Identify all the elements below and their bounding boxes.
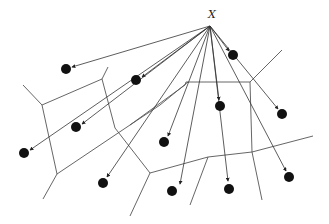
voronoi-edge <box>23 85 42 105</box>
ray-to-s12 <box>210 26 286 171</box>
ray-to-s5 <box>107 26 210 177</box>
ray-to-s11 <box>210 26 278 109</box>
ray-to-s1 <box>72 26 210 67</box>
sites <box>19 50 294 196</box>
site-s3 <box>71 122 81 132</box>
voronoi-edge <box>130 173 150 216</box>
site-s1 <box>61 64 71 74</box>
voronoi-edge <box>250 82 252 152</box>
voronoi-edge <box>252 152 262 200</box>
voronoi-edge <box>42 105 57 174</box>
voronoi-edge <box>43 174 57 199</box>
voronoi-edge <box>252 136 313 152</box>
site-s2 <box>131 75 141 85</box>
voronoi-edge <box>42 79 102 105</box>
ray-to-s3 <box>82 26 210 124</box>
query-point-label: X <box>207 8 217 21</box>
site-s8 <box>224 184 234 194</box>
voronoi-edge <box>190 157 208 205</box>
voronoi-edge <box>250 50 282 82</box>
voronoi-edge <box>150 157 208 173</box>
site-s7 <box>167 186 177 196</box>
site-s11 <box>277 109 287 119</box>
voronoi-edge <box>57 125 130 174</box>
site-s9 <box>215 101 225 111</box>
site-s4 <box>19 148 29 158</box>
site-s6 <box>159 137 169 147</box>
site-s10 <box>228 50 238 60</box>
voronoi-edge <box>208 152 252 157</box>
voronoi-edge <box>115 128 150 173</box>
voronoi-diagram: X <box>0 0 329 224</box>
site-s12 <box>284 172 294 182</box>
voronoi-edge <box>102 67 108 79</box>
site-s5 <box>98 178 108 188</box>
ray-to-s9 <box>210 26 219 100</box>
